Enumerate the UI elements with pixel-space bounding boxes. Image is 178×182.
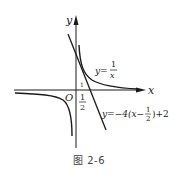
hyperbola-label-denominator: x [110,71,115,80]
hyperbola-branch-left [15,93,72,136]
tangent-label-prefix: y=−4(x− [101,109,144,119]
x-axis-label: x [148,84,155,97]
hyperbola-label-prefix: y= [94,66,108,76]
x-axis-arrow-icon [136,88,146,93]
x-tick-half-numerator: 1 [80,93,85,102]
origin-label: O [65,92,73,103]
tangent-label-denominator: 2 [146,115,150,123]
hyperbola-label-numerator: 1 [111,60,116,69]
y-axis-arrow-icon [74,15,79,25]
y-tick-1: 1 [80,81,84,88]
tangent-line [68,34,106,130]
figure-caption: 图 2-6 [0,152,178,167]
tangent-label-numerator: 1 [146,106,150,114]
tangent-label-suffix: )+2 [152,109,169,119]
x-tick-half-denominator: 2 [80,103,85,112]
y-axis-label: y [65,14,73,27]
